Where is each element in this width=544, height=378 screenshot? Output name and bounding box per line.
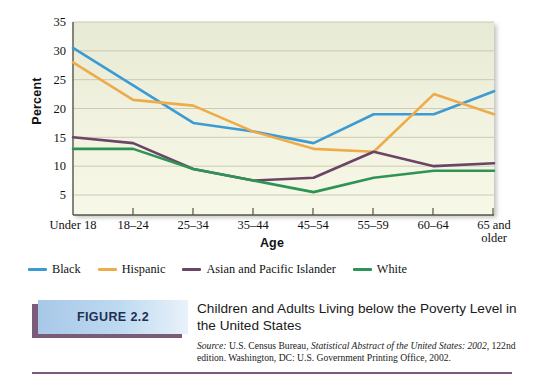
legend-item-black: Black xyxy=(28,262,81,277)
legend-swatch-asian-pacific-islander xyxy=(182,268,201,271)
legend-item-hispanic: Hispanic xyxy=(98,262,166,277)
y-tick-10: 10 xyxy=(36,159,66,174)
source-italic-title: Statistical Abstract of the United State… xyxy=(311,340,489,351)
legend-item-white: White xyxy=(353,262,407,277)
x-tick-under-18: Under 18 xyxy=(33,219,113,232)
source-part1: U.S. Census Bureau, xyxy=(229,340,309,351)
y-tick-35: 35 xyxy=(36,15,66,30)
y-tick-5: 5 xyxy=(36,188,66,203)
figure-container: Percent 35 30 25 20 15 10 5 Under 18 18–… xyxy=(0,0,544,378)
x-tick-55-59: 55–59 xyxy=(343,219,403,232)
x-axis-title: Age xyxy=(0,236,544,250)
legend-swatch-black xyxy=(28,268,47,271)
figure-number-text: FIGURE 2.2 xyxy=(77,310,149,324)
x-tick-60-64: 60–64 xyxy=(403,219,463,232)
legend-swatch-hispanic xyxy=(98,268,117,271)
figure-caption-block: FIGURE 2.2 Children and Adults Living be… xyxy=(0,300,544,378)
legend-swatch-white xyxy=(353,268,372,271)
legend-label-hispanic: Hispanic xyxy=(122,262,166,277)
x-tick-18-24: 18–24 xyxy=(103,219,163,232)
y-tick-30: 30 xyxy=(36,44,66,59)
legend-label-black: Black xyxy=(52,262,81,277)
y-tick-20: 20 xyxy=(36,102,66,117)
y-tick-15: 15 xyxy=(36,131,66,146)
chart-legend: Black Hispanic Asian and Pacific Islande… xyxy=(28,262,407,277)
figure-source: Source: U.S. Census Bureau, Statistical … xyxy=(197,340,527,364)
figure-title: Children and Adults Living below the Pov… xyxy=(197,301,527,334)
x-tick-45-54: 45–54 xyxy=(283,219,343,232)
figure-number-badge: FIGURE 2.2 xyxy=(38,300,188,334)
legend-label-asian-pacific-islander: Asian and Pacific Islander xyxy=(206,262,335,277)
legend-item-asian-pacific-islander: Asian and Pacific Islander xyxy=(182,262,335,277)
chart-area: Percent 35 30 25 20 15 10 5 Under 18 18–… xyxy=(0,0,544,258)
legend-label-white: White xyxy=(377,262,407,277)
y-tick-25: 25 xyxy=(36,73,66,88)
source-label: Source: xyxy=(197,340,226,351)
x-tick-25-34: 25–34 xyxy=(163,219,223,232)
x-tick-35-44: 35–44 xyxy=(223,219,283,232)
caption-bottom-rule xyxy=(32,372,512,374)
